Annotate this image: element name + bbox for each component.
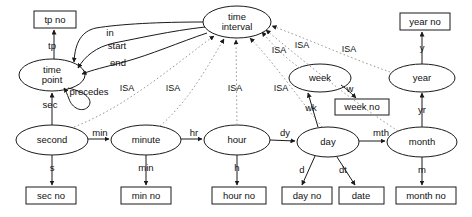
edge-label-hr: hr <box>190 128 198 138</box>
edge-label-mth: mth <box>373 128 389 138</box>
edge-label-dy: dy <box>280 128 290 138</box>
diagram-svg <box>0 0 472 217</box>
isa-second-timeinterval <box>74 36 214 127</box>
edge-in <box>74 22 203 62</box>
entity-label-minute: minute <box>132 135 161 145</box>
edge-label-d: d <box>299 165 304 175</box>
isa-label-5: ISA <box>272 46 287 55</box>
edge-label-w: w <box>347 84 354 94</box>
edge-label-h: h <box>234 163 239 173</box>
entity-label-hour: hour <box>227 135 246 145</box>
entity-label-week: week <box>309 73 331 83</box>
isa-label-4: ISA <box>274 84 289 93</box>
edge-label-precedes: precedes <box>69 87 108 97</box>
edge-label-yr: yr <box>418 105 426 115</box>
attribute-label-date: date <box>352 191 371 201</box>
edge-label-min-rel: min <box>92 128 107 138</box>
edge-label-sec: sec <box>43 100 58 110</box>
attribute-label-month-no: month no <box>406 191 446 201</box>
edge-end <box>82 33 207 74</box>
edge-hour-day <box>270 140 295 141</box>
attribute-label-hour-no: hour no <box>223 191 255 201</box>
entity-label-day: day <box>320 137 335 147</box>
edge-label-dt: dt <box>339 165 347 175</box>
isa-label-6: ISA <box>295 41 310 50</box>
attribute-label-year-no: year no <box>409 17 441 27</box>
edge-label-s: s <box>50 163 55 173</box>
edge-label-m: m <box>418 165 426 175</box>
entity-label-month: month <box>409 137 435 147</box>
edge-label-in: in <box>106 28 113 38</box>
isa-label-2: ISA <box>166 84 181 93</box>
attribute-label-day-no: day no <box>293 191 322 201</box>
attribute-label-sec-no: sec no <box>37 191 65 201</box>
edge-label-min-attr: min <box>138 163 153 173</box>
isa-label-1: ISA <box>120 84 135 93</box>
edge-label-start: start <box>108 41 126 51</box>
isa-label-3: ISA <box>228 84 243 93</box>
entity-label-time-interval: timeinterval <box>222 12 253 32</box>
attribute-label-tp-no: tp no <box>44 15 65 25</box>
er-diagram-canvas: timeinterval timepoint second minute hou… <box>0 0 472 217</box>
entity-label-time-point: timepoint <box>42 65 63 85</box>
edge-label-end: end <box>110 58 126 68</box>
entity-label-year: year <box>413 73 431 83</box>
attribute-label-min-no: min no <box>132 191 161 201</box>
entity-label-second: second <box>37 135 68 145</box>
attribute-label-week-no: week no <box>344 102 379 112</box>
isa-label-7: ISA <box>342 45 357 54</box>
edge-label-wk: wk <box>305 103 317 113</box>
edge-label-tp: tp <box>48 41 56 51</box>
edge-label-y: y <box>420 43 425 53</box>
edge-start <box>78 27 205 68</box>
